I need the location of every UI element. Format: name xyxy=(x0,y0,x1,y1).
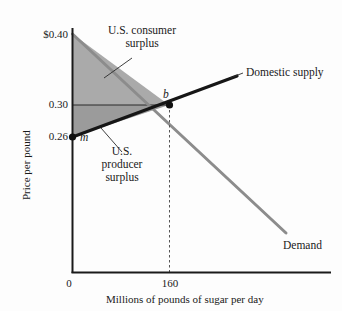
producer-surplus-label-line2: producer xyxy=(86,158,158,171)
point-b-label: b xyxy=(163,88,169,101)
y-axis-title: Price per pound xyxy=(20,130,32,200)
y-tick-label-mid: 0.30 xyxy=(8,98,68,110)
consumer-surplus-label: U.S. consumer surplus xyxy=(92,24,192,50)
x-axis-title: Millions of pounds of sugar per day xyxy=(106,293,264,305)
producer-surplus-label-line3: surplus xyxy=(86,171,158,184)
demand-curve xyxy=(73,34,287,233)
x-tick-label-origin: 0 xyxy=(58,277,80,289)
y-tick-label-low: 0.26 xyxy=(8,130,68,142)
domestic-supply-label: Domestic supply xyxy=(246,66,324,79)
point-m-label: m xyxy=(80,131,88,144)
demand-label: Demand xyxy=(283,239,322,252)
point-m-marker xyxy=(69,133,76,140)
consumer-surplus-label-line2: surplus xyxy=(92,37,192,50)
producer-surplus-label-line1: U.S. xyxy=(86,145,158,158)
producer-surplus-label: U.S. producer surplus xyxy=(86,145,158,184)
sugar-market-chart: $0.40 0.30 0.26 Price per pound 0 160 Mi… xyxy=(0,0,342,311)
y-tick-label-top: $0.40 xyxy=(8,28,68,40)
x-tick-label-equilibrium: 160 xyxy=(152,277,188,289)
consumer-surplus-label-line1: U.S. consumer xyxy=(92,24,192,37)
point-b-marker xyxy=(166,101,173,108)
